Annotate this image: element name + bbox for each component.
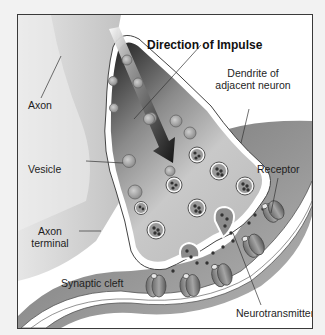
label-dendrite-line2: adjacent neuron — [208, 79, 298, 91]
label-axon-terminal-line1: Axon — [28, 225, 72, 237]
title-direction-of-impulse: Direction of Impulse — [147, 39, 262, 51]
label-vesicle: Vesicle — [28, 163, 61, 175]
label-receptor: Receptor — [257, 163, 300, 175]
label-axon-terminal-line2: terminal — [28, 237, 72, 249]
label-synaptic-cleft: Synaptic cleft — [61, 277, 123, 289]
label-dendrite-line1: Dendrite of — [208, 67, 298, 79]
label-dendrite: Dendrite of adjacent neuron — [208, 67, 298, 91]
label-axon: Axon — [28, 99, 52, 111]
label-axon-terminal: Axon terminal — [28, 225, 72, 249]
label-neurotransmitter: Neurotransmitter — [236, 307, 313, 319]
diagram-frame: Direction of Impulse Axon Vesicle Axon t… — [17, 14, 313, 329]
